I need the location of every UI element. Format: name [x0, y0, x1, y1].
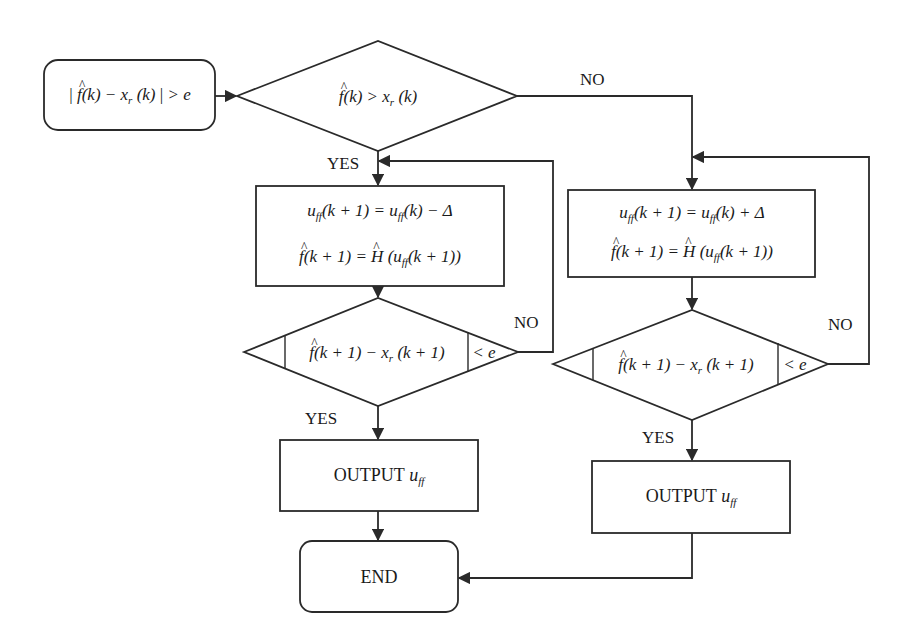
decision-left-expr: f(k + 1) − xr (k + 1) — [309, 344, 444, 364]
expr: (k + 1) − x — [314, 343, 389, 362]
edge-label-yes-right: YES — [642, 428, 674, 448]
process-decrease-line1: uff(k + 1) = uff(k) − Δ — [307, 202, 452, 222]
start-threshold: > e — [167, 85, 190, 104]
decision-right-threshold: < e — [783, 356, 806, 373]
process-decrease-line2: f(k + 1) = H (uff(k + 1)) — [299, 248, 461, 268]
u-symbol: u — [721, 486, 730, 506]
u-symbol: u — [409, 465, 418, 485]
f-hat-symbol: f — [299, 248, 304, 265]
f-hat-symbol: f — [618, 356, 623, 373]
edge-main-no — [517, 96, 692, 189]
f-hat-symbol: f — [339, 88, 344, 105]
expr: (k + 1)) — [408, 247, 461, 266]
edge-output-right-to-end — [459, 533, 692, 578]
edge-label-no-left: NO — [514, 313, 539, 333]
f-hat-symbol: f — [309, 344, 314, 361]
subscript-ff: ff — [418, 475, 424, 487]
output-left-label: OUTPUT uff — [334, 466, 425, 487]
edge-label-yes-main: YES — [327, 154, 359, 174]
decision-main-expr: (k) > x — [343, 87, 389, 106]
h-hat-symbol: H — [371, 248, 383, 265]
start-expr: (k) − x — [82, 85, 128, 104]
output-text: OUTPUT — [334, 465, 405, 485]
expr: (k + 1) − x — [623, 355, 698, 374]
expr: (k) + Δ — [716, 203, 765, 222]
f-hat-symbol: f — [611, 243, 616, 260]
u-symbol: u — [307, 201, 316, 220]
start-node-label: | f(k) − xr (k) | > e — [69, 86, 190, 106]
u-symbol: u — [393, 247, 402, 266]
decision-left-threshold: < e — [472, 344, 495, 361]
edge-label-no-main: NO — [580, 70, 605, 90]
decision-main-label: f(k) > xr (k) — [339, 88, 418, 108]
subscript-ff: ff — [730, 496, 736, 508]
output-right-label: OUTPUT uff — [646, 487, 737, 508]
expr: (k + 1) — [702, 355, 754, 374]
expr: (k + 1) = — [304, 247, 371, 266]
expr: (k + 1) — [393, 343, 445, 362]
start-expr-tail: (k) — [132, 85, 155, 104]
process-increase-line2: f(k + 1) = H (uff(k + 1)) — [611, 243, 773, 263]
decision-right-expr: f(k + 1) − xr (k + 1) — [618, 356, 753, 376]
edge-label-no-right: NO — [828, 315, 853, 335]
expr: (k) − Δ — [404, 201, 453, 220]
decision-main-expr-tail: (k) — [394, 87, 417, 106]
process-increase-line1: uff(k + 1) = uff(k) + Δ — [619, 204, 764, 224]
expr: (k + 1)) — [720, 242, 773, 261]
expr: (k + 1) = — [634, 203, 701, 222]
expr: ( — [383, 247, 393, 266]
expr: (k + 1) = — [322, 201, 389, 220]
u-symbol: u — [619, 203, 628, 222]
f-hat-symbol: f — [77, 86, 82, 103]
h-hat-symbol: H — [683, 243, 695, 260]
edge-label-yes-left: YES — [305, 409, 337, 429]
expr: ( — [695, 242, 705, 261]
output-text: OUTPUT — [646, 486, 717, 506]
end-label: END — [361, 568, 398, 586]
expr: (k + 1) = — [616, 242, 683, 261]
u-symbol: u — [705, 242, 714, 261]
